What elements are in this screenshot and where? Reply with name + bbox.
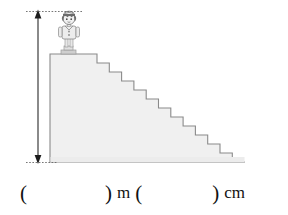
- child-button-1: [68, 31, 70, 33]
- open-paren-centimeters: (: [135, 183, 142, 204]
- close-paren-centimeters: ): [212, 183, 219, 204]
- close-paren-meters: ): [105, 183, 112, 204]
- height-dimension-arrow: [35, 10, 42, 165]
- child-eye-left: [66, 18, 68, 20]
- arrowhead-up: [35, 10, 42, 19]
- child-button-2: [68, 34, 70, 36]
- child-arm-left: [59, 27, 63, 37]
- open-paren-meters: (: [20, 183, 27, 204]
- answer-line: ( ) m ( ) cm: [0, 176, 288, 210]
- child-arm-right: [76, 27, 80, 37]
- staircase-base-shadow: [51, 157, 245, 162]
- child-base: [61, 50, 76, 54]
- staircase-shape: [50, 54, 245, 162]
- unit-meters: m: [115, 183, 132, 203]
- figure-root: ( ) m ( ) cm: [0, 0, 288, 215]
- unit-centimeters: cm: [222, 183, 247, 203]
- child-torso: [62, 26, 76, 39]
- child-eye-right: [70, 18, 72, 20]
- child-figure: [59, 11, 80, 54]
